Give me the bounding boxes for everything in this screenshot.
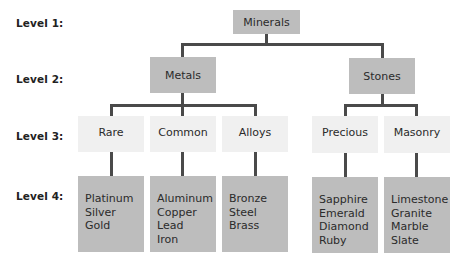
connector-to-rare [110,104,113,116]
connector-to-precious [344,104,347,116]
item-platinum: Platinum [85,192,144,206]
connector-to-alloys [254,104,257,116]
node-rare: Rare [78,116,144,152]
connector-to-metals [181,43,184,57]
node-precious: Precious [312,116,378,153]
item-iron: Iron [157,233,216,247]
item-ruby: Ruby [319,234,378,248]
node-stones: Stones [349,58,415,94]
item-sapphire: Sapphire [319,193,378,207]
connector-precious-items [344,153,347,177]
item-diamond: Diamond [319,220,378,234]
node-rare-items: Platinum Silver Gold [78,176,144,252]
item-silver: Silver [85,206,144,220]
node-precious-items: Sapphire Emerald Diamond Ruby [312,177,378,253]
node-metals: Metals [150,57,216,93]
item-lead: Lead [157,219,216,233]
node-common-items: Aluminum Copper Lead Iron [150,176,216,252]
connector-common-items [181,152,184,176]
connector-alloys-items [254,152,257,176]
item-marble: Marble [391,220,450,234]
connector-to-stones [381,43,384,58]
level-2-label: Level 2: [16,73,63,85]
item-aluminum: Aluminum [157,192,216,206]
connector-level2-bar [181,43,384,46]
item-brass: Brass [229,219,288,233]
item-limestone: Limestone [391,193,450,207]
item-copper: Copper [157,206,216,220]
node-masonry-items: Limestone Granite Marble Slate [384,177,450,253]
item-gold: Gold [85,219,144,233]
node-alloys-items: Bronze Steel Brass [222,176,288,252]
node-masonry: Masonry [384,116,450,153]
connector-rare-items [110,152,113,176]
level-4-label: Level 4: [16,190,63,202]
node-alloys: Alloys [222,116,288,152]
item-bronze: Bronze [229,192,288,206]
connector-to-common [181,104,184,116]
item-granite: Granite [391,207,450,221]
node-minerals: Minerals [233,10,300,34]
item-emerald: Emerald [319,207,378,221]
connector-to-masonry [415,104,418,116]
level-1-label: Level 1: [16,17,63,29]
node-common: Common [150,116,216,152]
item-slate: Slate [391,234,450,248]
connector-stones-bar [344,104,418,107]
level-3-label: Level 3: [16,130,63,142]
connector-masonry-items [415,153,418,177]
item-steel: Steel [229,206,288,220]
